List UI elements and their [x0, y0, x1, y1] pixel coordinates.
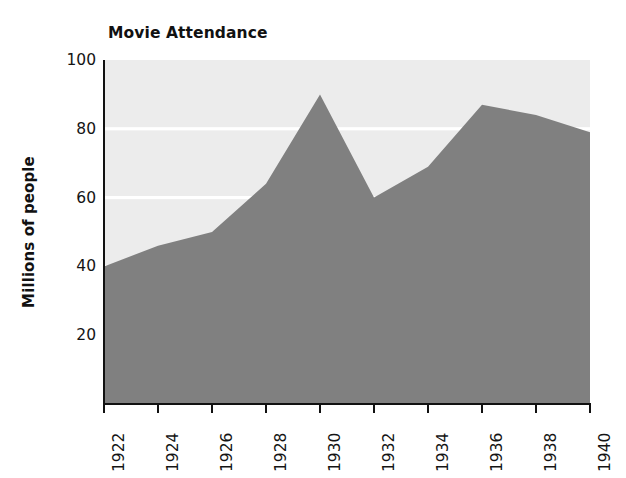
- x-tick-label-1930: 1930: [326, 412, 342, 472]
- x-tick-mark-1922: [103, 404, 105, 413]
- x-tick-mark-1928: [265, 404, 267, 413]
- x-tick-label-1924: 1924: [164, 412, 180, 472]
- y-axis-tick-labels: 20406080100: [0, 0, 96, 478]
- y-tick-label-100: 100: [12, 51, 96, 69]
- y-tick-label-80: 80: [12, 120, 96, 138]
- x-tick-label-1938: 1938: [542, 412, 558, 472]
- plot-area: [104, 60, 590, 404]
- x-tick-label-1932: 1932: [380, 412, 396, 472]
- x-tick-label-1928: 1928: [272, 412, 288, 472]
- x-tick-mark-1934: [427, 404, 429, 413]
- x-tick-mark-1936: [481, 404, 483, 413]
- area-series-svg: [104, 60, 590, 404]
- y-tick-label-40: 40: [12, 257, 96, 275]
- x-tick-mark-1930: [319, 404, 321, 413]
- x-tick-label-1934: 1934: [434, 412, 450, 472]
- x-tick-mark-1938: [535, 404, 537, 413]
- y-tick-label-60: 60: [12, 189, 96, 207]
- x-tick-label-1922: 1922: [110, 412, 126, 472]
- x-axis-line: [103, 403, 591, 405]
- x-tick-label-1926: 1926: [218, 412, 234, 472]
- x-tick-label-1936: 1936: [488, 412, 504, 472]
- x-tick-mark-1940: [589, 404, 591, 413]
- movie-attendance-chart: Movie Attendance Millions of people 2040…: [0, 0, 626, 478]
- y-axis-line: [103, 60, 105, 405]
- x-tick-mark-1932: [373, 404, 375, 413]
- x-tick-mark-1926: [211, 404, 213, 413]
- x-tick-mark-1924: [157, 404, 159, 413]
- chart-title: Movie Attendance: [108, 24, 268, 42]
- y-tick-label-20: 20: [12, 326, 96, 344]
- x-tick-label-1940: 1940: [596, 412, 612, 472]
- area-series-path: [104, 94, 590, 404]
